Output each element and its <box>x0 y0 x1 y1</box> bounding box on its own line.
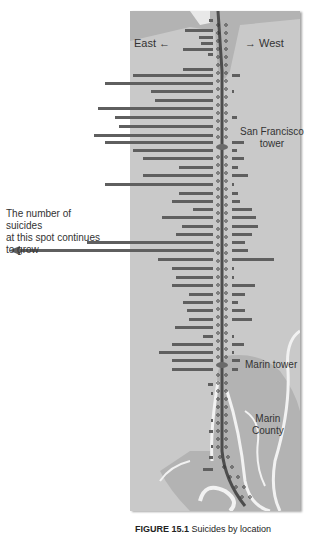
marin-county-label: Marin County <box>252 413 284 437</box>
sf-tower-label: San Francisco tower <box>240 126 304 150</box>
arrow-right-icon: → <box>245 37 256 49</box>
marin-tower-label: Marin tower <box>245 359 297 371</box>
annotation-note: The number of suicides at this spot cont… <box>6 208 106 256</box>
arrow-left-icon: ← <box>159 37 170 49</box>
west-label: → West <box>245 37 284 49</box>
east-label: East ← <box>134 37 170 49</box>
figure-caption: FIGURE 15.1 Suicides by location <box>135 524 271 534</box>
